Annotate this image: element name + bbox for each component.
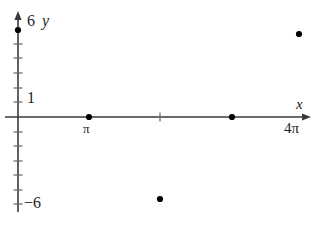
- data-point: [157, 196, 163, 202]
- y-axis-one-label: 1: [27, 90, 35, 106]
- scatter-plot-figure: 6 y 1 −6 π 4π x: [0, 0, 320, 236]
- x-axis-pi-label: π: [83, 122, 90, 135]
- data-point: [15, 27, 21, 33]
- x-axis-4pi-label: 4π: [284, 121, 299, 136]
- plot-canvas: [0, 0, 320, 236]
- y-axis-name-label: y: [42, 13, 49, 29]
- data-point: [296, 31, 302, 37]
- data-point: [229, 114, 235, 120]
- y-axis-max-label: 6: [27, 13, 35, 29]
- y-axis-min-label: −6: [24, 195, 41, 211]
- x-axis-name-label: x: [296, 97, 303, 112]
- x-axis-arrowhead: [302, 113, 311, 120]
- y-axis-arrowhead: [14, 11, 21, 20]
- data-point: [86, 114, 92, 120]
